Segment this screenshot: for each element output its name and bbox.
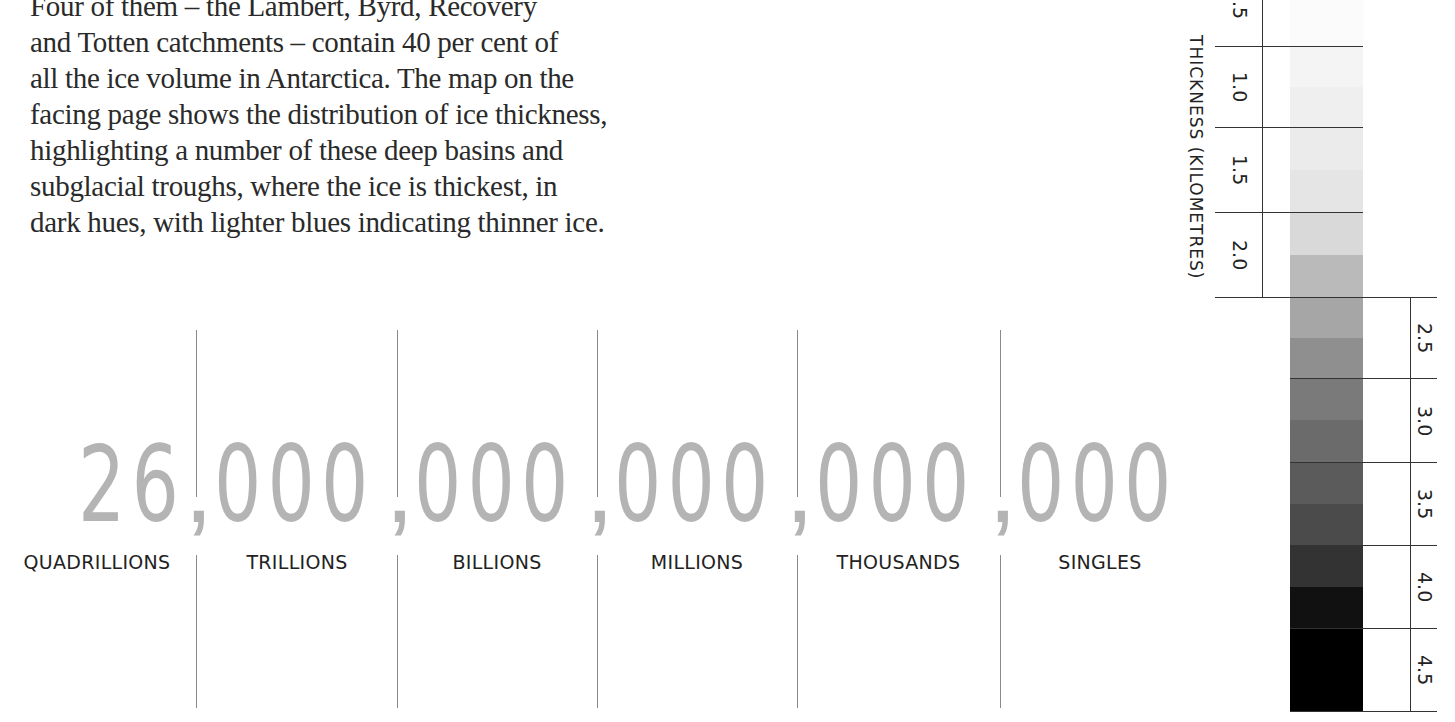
label-thousands: THOUSANDS	[797, 547, 1000, 577]
digit-group-singles: 000	[1017, 430, 1178, 540]
legend-value: 2.0	[1225, 225, 1255, 285]
legend-tick	[1290, 711, 1437, 712]
legend-band	[1290, 420, 1363, 462]
digit-group-trillions: 000	[214, 430, 375, 540]
legend-value: 4.5	[1410, 640, 1440, 700]
legend-band	[1290, 46, 1363, 87]
legend-value: 3.0	[1410, 391, 1440, 451]
paragraph-line: Four of them – the Lambert, Byrd, Recove…	[30, 0, 710, 24]
divider-line	[196, 330, 197, 497]
legend-band	[1290, 170, 1363, 212]
digit-group-millions: 000	[614, 430, 775, 540]
label-billions: BILLIONS	[397, 547, 597, 577]
legend-vertical-rule	[1262, 0, 1263, 297]
label-trillions: TRILLIONS	[197, 547, 397, 577]
divider-line	[196, 555, 197, 708]
label-millions: MILLIONS	[597, 547, 797, 577]
divider-line	[597, 330, 598, 497]
legend-band	[1290, 255, 1363, 297]
divider-line	[397, 330, 398, 497]
legend-band	[1290, 504, 1363, 545]
legend-value: 4.0	[1410, 557, 1440, 617]
divider-line	[1000, 330, 1001, 497]
label-singles: SINGLES	[1000, 547, 1200, 577]
legend-tick	[1290, 545, 1437, 546]
label-quadrillions: QUADRILLIONS	[0, 547, 194, 577]
legend-value: 2.5	[1410, 308, 1440, 368]
divider-line	[1000, 555, 1001, 708]
paragraph-line: all the ice volume in Antarctica. The ma…	[30, 60, 710, 96]
legend-band	[1290, 212, 1363, 255]
paragraph-line: and Totten catchments – contain 40 per c…	[30, 24, 710, 60]
divider-line	[597, 555, 598, 708]
divider-line	[397, 555, 398, 708]
legend-band	[1290, 587, 1363, 628]
big-number: 26 , 000 , 000 , 000 , 000 , 000	[0, 430, 1200, 540]
legend-value: 1.0	[1225, 57, 1255, 117]
comma-separator: ,	[785, 430, 814, 540]
legend-band	[1290, 462, 1363, 504]
comma-separator: ,	[988, 430, 1017, 540]
digit-group-quadrillions: 26	[78, 430, 185, 540]
legend-title: THICKNESS (KILOMETRES)	[1176, 35, 1206, 315]
legend-value: .5	[1225, 0, 1255, 40]
legend-tick	[1290, 378, 1437, 379]
legend-tick	[1215, 212, 1363, 213]
legend-tick	[1290, 462, 1437, 463]
paragraph-line: dark hues, with lighter blues indicating…	[30, 204, 710, 240]
legend-band	[1290, 87, 1363, 127]
comma-separator: ,	[585, 430, 614, 540]
legend-band	[1290, 127, 1363, 170]
legend-value: 1.5	[1225, 140, 1255, 200]
article-paragraph: Four of them – the Lambert, Byrd, Recove…	[30, 0, 710, 240]
legend-band	[1290, 297, 1363, 338]
legend-band	[1290, 628, 1363, 712]
legend-tick	[1215, 127, 1363, 128]
divider-line	[797, 330, 798, 497]
legend-value: 3.5	[1410, 474, 1440, 534]
legend-band	[1290, 378, 1363, 420]
paragraph-line: subglacial troughs, where the ice is thi…	[30, 168, 710, 204]
legend-tick	[1215, 297, 1437, 298]
comma-separator: ,	[184, 430, 213, 540]
paragraph-line: highlighting a number of these deep basi…	[30, 132, 710, 168]
legend-tick	[1215, 46, 1363, 47]
legend-band	[1290, 0, 1363, 46]
paragraph-line: facing page shows the distribution of ic…	[30, 96, 710, 132]
comma-separator: ,	[385, 430, 414, 540]
legend-band	[1290, 338, 1363, 378]
legend-tick	[1290, 628, 1437, 629]
digit-group-thousands: 000	[815, 430, 976, 540]
legend-band	[1290, 545, 1363, 587]
divider-line	[797, 555, 798, 708]
digit-group-billions: 000	[414, 430, 575, 540]
